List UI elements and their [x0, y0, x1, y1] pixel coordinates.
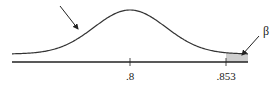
distribution-curve: [12, 10, 248, 54]
curve-pointer-arrow: [60, 6, 78, 29]
tick-label: .853: [216, 70, 236, 82]
normal-curve-chart: .8.853 β: [0, 0, 280, 93]
beta-label: β: [263, 24, 269, 38]
tick-label: .8: [126, 70, 135, 82]
beta-pointer-arrow: [242, 36, 259, 55]
